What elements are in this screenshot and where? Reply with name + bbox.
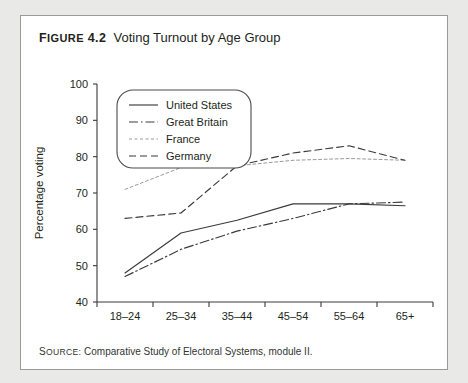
x-axis-tick-label: 45–54 — [278, 310, 309, 322]
x-axis-tick-label: 35–44 — [222, 310, 253, 322]
y-axis-title: Percentage voting — [33, 147, 45, 240]
figure-number-value: 4.2 — [84, 31, 106, 45]
x-axis-tick-label: 18–24 — [110, 310, 141, 322]
y-axis-tick-label: 90 — [76, 114, 88, 126]
y-axis-tick-label: 50 — [76, 260, 88, 272]
legend-label-united-states: United States — [166, 99, 233, 111]
source-text: Comparative Study of Electoral Systems, … — [84, 346, 312, 357]
figure-number: FIGURE 4.2 — [39, 32, 106, 44]
source-label-caps: OURCE — [46, 347, 79, 357]
source-label: SOURCE: — [39, 347, 81, 357]
line-chart: 40506070809010018–2425–3435–4445–5455–64… — [21, 50, 449, 338]
y-axis-tick-label: 40 — [76, 296, 88, 308]
figure-number-prefix: F — [39, 31, 47, 45]
chart-plot-area: 40506070809010018–2425–3435–4445–5455–64… — [21, 50, 449, 338]
source-note: SOURCE: Comparative Study of Electoral S… — [39, 346, 312, 357]
y-axis-tick-label: 70 — [76, 187, 88, 199]
x-axis-title: Age group — [238, 336, 291, 338]
figure-number-smallcaps: IGURE — [47, 32, 84, 44]
series-line-great-britain — [125, 202, 405, 276]
figure-title-text: Voting Turnout by Age Group — [106, 30, 280, 45]
series-line-united-states — [125, 204, 405, 273]
figure-title-label: Voting Turnout by Age Group — [114, 30, 281, 45]
legend-label-germany: Germany — [166, 150, 212, 162]
figure-title: FIGURE 4.2 Voting Turnout by Age Group — [39, 30, 281, 45]
x-axis-tick-label: 25–34 — [166, 310, 197, 322]
y-axis-tick-label: 60 — [76, 223, 88, 235]
y-axis-tick-label: 100 — [70, 78, 88, 90]
legend-label-great-britain: Great Britain — [166, 116, 228, 128]
source-label-prefix: S — [39, 346, 46, 357]
x-axis-tick-label: 65+ — [396, 310, 415, 322]
x-axis-tick-label: 55–64 — [334, 310, 365, 322]
legend-label-france: France — [166, 133, 200, 145]
y-axis-tick-label: 80 — [76, 151, 88, 163]
figure-card: FIGURE 4.2 Voting Turnout by Age Group 4… — [20, 15, 448, 370]
